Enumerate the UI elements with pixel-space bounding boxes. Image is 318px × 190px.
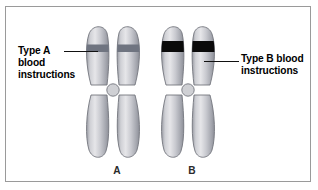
chromosome-diagram: Type A blood instructions Type B blood i… [0, 0, 318, 190]
chromosome-a [84, 23, 142, 163]
chromosome-a-upper-right-arm [110, 27, 144, 85]
label-type-a-blood-instructions: Type A blood instructions [18, 45, 75, 82]
chromosome-b [159, 23, 217, 163]
chromosome-a-band-right [110, 45, 144, 53]
chromosome-a-name: A [107, 165, 127, 176]
chromosome-b-name: B [182, 165, 202, 176]
chromosome-b-lower-right-arm [192, 95, 214, 157]
label-type-b-blood-instructions: Type B blood instructions [241, 53, 304, 77]
chromosome-b-lower-left-arm [162, 95, 184, 157]
chromosome-a-lower-left-arm [87, 95, 109, 157]
chromosome-a-upper-left-arm [82, 27, 116, 85]
chromosome-b-band-right [185, 41, 219, 52]
chromosome-b-upper-left-arm [157, 27, 191, 85]
chromosome-a-lower-right-arm [117, 95, 139, 157]
leader-line-type-b [204, 61, 239, 62]
chromosome-b-band-left [157, 41, 191, 52]
diagram-frame: Type A blood instructions Type B blood i… [5, 6, 311, 182]
chromosome-b-centromere [182, 84, 194, 96]
chromosome-b-upper-right-arm [185, 27, 219, 85]
chromosome-a-centromere [107, 84, 119, 96]
